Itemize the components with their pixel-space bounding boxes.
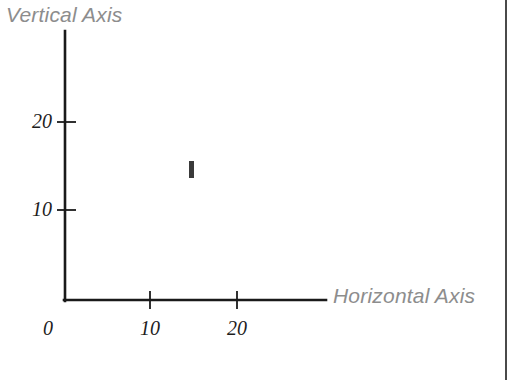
y-tick-label-20: 20 [8,110,52,133]
x-tick-label-0: 0 [28,317,68,340]
vertical-axis-title: Vertical Axis [6,3,123,27]
x-tick-label-20: 20 [217,317,257,340]
y-tick-label-10: 10 [8,198,52,221]
data-point-marker [189,161,194,178]
figure-canvas: Vertical Axis Horizontal Axis 20 10 0 10… [0,0,519,380]
horizontal-axis-title: Horizontal Axis [333,284,475,308]
plot-area [0,0,519,380]
x-tick-label-10: 10 [130,317,170,340]
